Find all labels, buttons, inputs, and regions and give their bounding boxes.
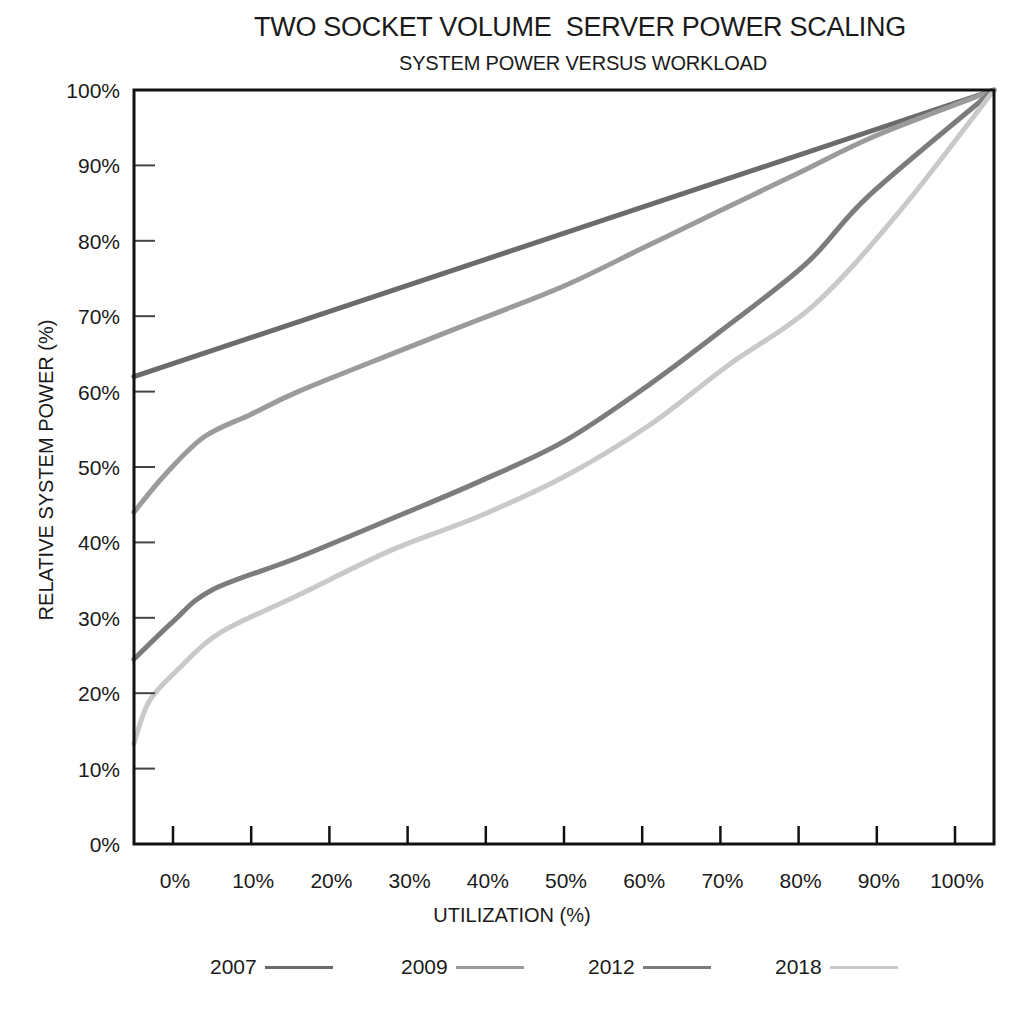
legend-item-2012: 2012 [588,955,711,979]
y-tick-label: 10% [78,758,120,781]
x-tick-labels: 0%10%20%30%40%50%60%70%80%90%100% [160,869,984,892]
y-tick-label: 40% [78,531,120,554]
y-tick-label: 0% [90,833,120,856]
y-tick-label: 100% [66,79,120,102]
series-line-2012 [134,90,994,659]
y-tick-label: 50% [78,456,120,479]
x-tick-label: 10% [232,869,274,892]
x-tick-label: 40% [467,869,509,892]
legend-swatch [265,966,333,969]
legend-swatch [830,966,898,969]
x-tick-label: 60% [623,869,665,892]
y-tick-label: 30% [78,607,120,630]
legend-item-2007: 2007 [210,955,333,979]
legend-label: 2009 [401,955,448,979]
legend-swatch [456,966,524,969]
y-tick-label: 90% [78,154,120,177]
series-line-2018 [134,90,994,744]
legend-label: 2018 [775,955,822,979]
x-tick-label: 70% [701,869,743,892]
legend-item-2009: 2009 [401,955,524,979]
y-axis-label: RELATIVE SYSTEM POWER (%) [35,320,57,621]
legend-item-2018: 2018 [775,955,898,979]
x-tick-label: 0% [160,869,190,892]
series-layer [134,90,994,744]
y-tick-label: 70% [78,305,120,328]
x-tick-label: 90% [858,869,900,892]
x-tick-label: 20% [310,869,352,892]
tick-layer [134,165,955,844]
plot-area: 0%10%20%30%40%50%60%70%80%90%100% 0%10%2… [0,0,1028,1017]
y-tick-label: 80% [78,230,120,253]
legend-swatch [643,966,711,969]
legend-label: 2012 [588,955,635,979]
x-tick-label: 80% [780,869,822,892]
legend: 2007 2009 2012 2018 [0,955,1028,985]
x-tick-label: 50% [545,869,587,892]
y-tick-label: 60% [78,381,120,404]
series-line-2007 [134,90,994,377]
x-axis-label: UTILIZATION (%) [433,904,590,926]
y-tick-labels: 0%10%20%30%40%50%60%70%80%90%100% [66,79,120,856]
x-tick-label: 30% [389,869,431,892]
x-tick-label: 100% [930,869,984,892]
series-line-2009 [134,90,994,512]
y-tick-label: 20% [78,682,120,705]
plot-frame [134,90,994,844]
legend-label: 2007 [210,955,257,979]
